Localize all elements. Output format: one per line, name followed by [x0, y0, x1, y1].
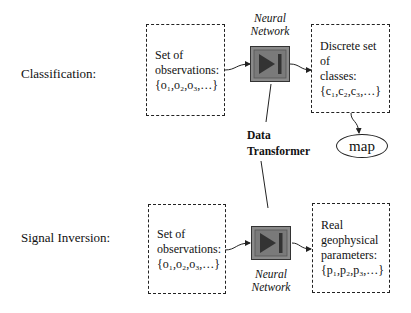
neural-network-icon	[251, 226, 291, 260]
input-line-1: Set of	[155, 48, 224, 63]
output-line-2: classes:	[320, 69, 389, 84]
input-line-3: {o₁,o₂,o₃,…}	[155, 78, 224, 93]
signal-inversion-label: Signal Inversion:	[21, 230, 110, 246]
signal-inversion-network-label: Neural Network	[236, 268, 306, 294]
output-line-1: Real	[321, 218, 389, 233]
output-line-3: parameters:	[321, 248, 389, 263]
neural-network-icon	[250, 46, 290, 82]
output-line-1: Discrete set of	[320, 39, 389, 69]
input-line-1: Set of	[157, 227, 225, 242]
classification-input-box: Set of observations: {o₁,o₂,o₃,…}	[146, 24, 225, 116]
map-node: map	[336, 134, 388, 158]
input-line-3: {o₁,o₂,o₃,…}	[157, 257, 225, 272]
output-line-2: geophysical	[321, 233, 389, 248]
classification-network-label: Neural Network	[235, 12, 305, 38]
classification-label: Classification:	[21, 66, 96, 82]
output-line-4: {p₁,p₂,p₃,…}	[321, 263, 389, 278]
output-line-3: {c₁,c₂,c₃,…}	[320, 84, 389, 99]
input-line-2: observations:	[157, 242, 225, 257]
data-transformer-label: Data Transformer	[247, 127, 310, 159]
signal-inversion-input-box: Set of observations: {o₁,o₂,o₃,…}	[148, 204, 226, 294]
signal-inversion-output-box: Real geophysical parameters: {p₁,p₂,p₃,……	[312, 203, 390, 293]
input-line-2: observations:	[155, 63, 224, 78]
classification-output-box: Discrete set of classes: {c₁,c₂,c₃,…}	[311, 24, 390, 113]
